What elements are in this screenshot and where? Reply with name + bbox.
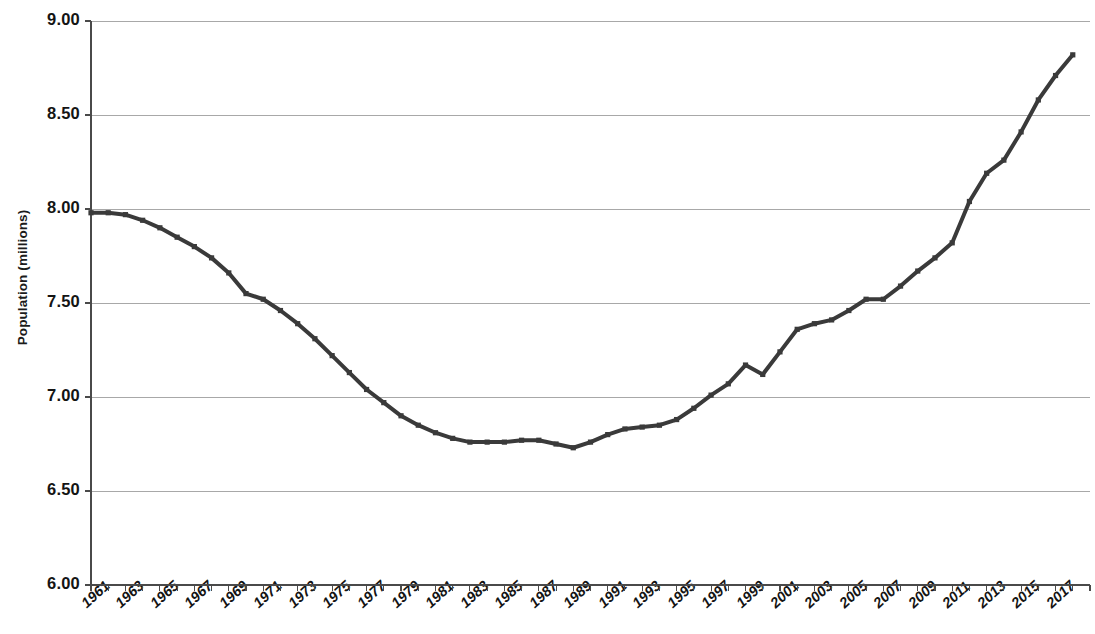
plot-area <box>0 0 1095 634</box>
gridlines <box>91 21 1090 585</box>
data-series-population <box>88 52 1075 450</box>
x-axis-ticks <box>91 585 1090 591</box>
y-axis-ticks <box>85 21 91 585</box>
population-line-chart: Population (millions) 9.008.508.007.507.… <box>0 0 1095 634</box>
